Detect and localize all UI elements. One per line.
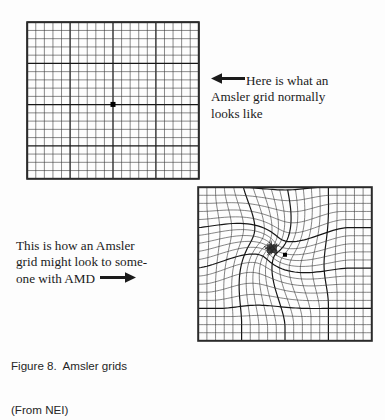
amd-annotation-text-2: grid might look to some- xyxy=(16,254,196,270)
amsler-grid-normal-svg xyxy=(26,21,200,180)
amd-annotation-text-1: This is how an Amsler xyxy=(16,238,196,254)
normal-annotation-text-3: looks like xyxy=(211,106,383,122)
amd-annotation-text-3: one with AMD xyxy=(16,271,95,287)
amd-annotation-line-3: one with AMD xyxy=(16,271,196,288)
figure-caption: Figure 8. Amsler grids (From NEI) xyxy=(11,330,127,420)
amsler-grid-distorted-svg xyxy=(197,186,373,342)
normal-annotation-text-1: Here is what an xyxy=(246,73,328,89)
normal-annotation-line-1: Here is what an xyxy=(211,72,383,89)
arrow-right-icon xyxy=(100,271,136,288)
figure-caption-line-1: Figure 8. Amsler grids xyxy=(11,359,127,374)
amd-grid-annotation: This is how an Amsler grid might look to… xyxy=(16,238,196,288)
normal-annotation-text-2: Amsler grid normally xyxy=(211,89,383,105)
normal-grid-annotation: Here is what an Amsler grid normally loo… xyxy=(211,72,383,122)
figure-caption-line-2: (From NEI) xyxy=(11,403,127,418)
amsler-grid-normal xyxy=(26,21,200,180)
amsler-grid-distorted xyxy=(197,186,373,342)
arrow-left-icon xyxy=(211,72,245,89)
